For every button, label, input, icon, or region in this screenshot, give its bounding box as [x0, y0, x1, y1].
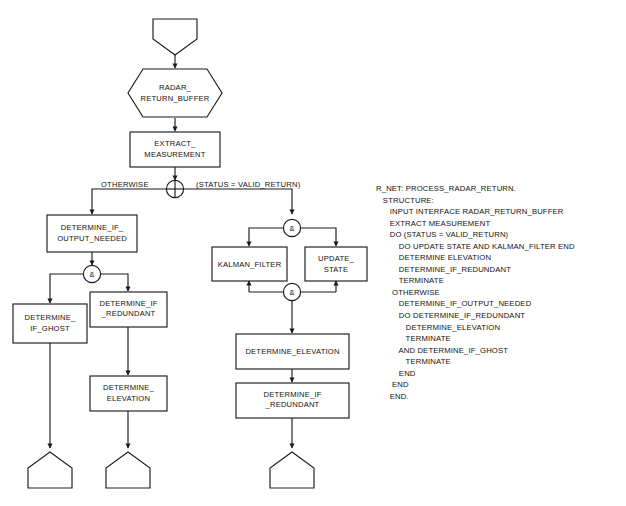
terminator-ghost-branch[interactable] [28, 452, 72, 488]
pseudocode-line: END [376, 368, 622, 380]
edge-and-to-update-state [301, 228, 336, 246]
pseudocode-line: OTHERWISE [376, 287, 622, 299]
pseudocode-line: END [376, 379, 622, 391]
determine-if-redundant-right-label-line1: DETERMINE_IF [263, 390, 321, 399]
pseudocode-line: DETERMINE ELEVATION [376, 252, 622, 264]
pseudocode-line: DETERMINE_ELEVATION [376, 322, 622, 334]
determine-if-redundant-right-label-line2: _REDUNDANT [265, 400, 320, 409]
pseudocode-block: R_NET: PROCESS_RADAR_RETURN. STRUCTURE: … [376, 183, 622, 402]
terminator-valid-return-branch[interactable] [270, 452, 314, 488]
determine-if-redundant-left-label-line2: _REDUNDANT [101, 309, 156, 318]
edge-label-otherwise: OTHERWISE [101, 180, 149, 189]
determine-elevation-left-label-line2: ELEVATION [107, 394, 150, 403]
pseudocode-line: DO DETERMINE_IF_REDUNDANT [376, 310, 622, 322]
pseudocode-line: AND DETERMINE_IF_GHOST [376, 345, 622, 357]
edge-and-to-ghost [50, 274, 83, 303]
determine-if-output-needed-label-line2: OUTPUT_NEEDED [57, 234, 127, 243]
pseudocode-line: STRUCTURE: [376, 195, 622, 207]
update-state-label-line1: UPDATE_ [318, 254, 354, 263]
pseudocode-line: TERMINATE [376, 356, 622, 368]
determine-if-redundant-left-label-line1: DETERMINE_IF [99, 299, 157, 308]
and-junction-left-glyph: & [90, 270, 95, 279]
pseudocode-line: TERMINATE [376, 275, 622, 287]
pseudocode-line: INPUT INTERFACE RADAR_RETURN_BUFFER [376, 206, 622, 218]
edge-label-valid-return: (STATUS = VALID_RETURN) [196, 180, 301, 189]
pseudocode-line: R_NET: PROCESS_RADAR_RETURN. [376, 183, 622, 195]
determine-elevation-left-label-line1: DETERMINE_ [103, 383, 155, 392]
determine-if-output-needed-label-line1: DETERMINE_IF_ [61, 223, 124, 232]
extract-measurement-label-line2: MEASUREMENT [144, 150, 205, 159]
determine-elevation-right-label: DETERMINE_ELEVATION [245, 347, 339, 356]
radar-return-buffer-label-line1: RADAR_ [159, 83, 192, 92]
edge-and-to-kalman [249, 228, 283, 246]
and-junction-right-upper[interactable]: & [283, 219, 300, 236]
edge-selection-otherwise [92, 189, 166, 214]
and-junction-right-lower-glyph: & [290, 288, 295, 297]
pseudocode-line: DETERMINE_IF_OUTPUT_NEEDED [376, 298, 622, 310]
pseudocode-line: DO (STATUS = VALID_RETURN) [376, 229, 622, 241]
start-terminator[interactable] [153, 19, 197, 55]
determine-if-ghost-label-line1: DETERMINE_ [25, 313, 77, 322]
edge-and-to-redundant-left [101, 274, 128, 291]
radar-return-buffer-label-line2: RETURN_BUFFER [141, 94, 210, 103]
pseudocode-line: DO UPDATE STATE AND KALMAN_FILTER END [376, 241, 622, 253]
selection-junction[interactable] [166, 180, 183, 197]
pseudocode-line: END. [376, 391, 622, 403]
update-state-label-line2: STATE [324, 265, 348, 274]
extract-measurement-label-line1: EXTRACT_ [154, 139, 196, 148]
determine-if-ghost-label-line2: IF_GHOST [30, 324, 70, 333]
and-junction-right-upper-glyph: & [290, 224, 295, 233]
and-junction-right-lower[interactable]: & [283, 283, 300, 300]
terminator-elevation-branch[interactable] [106, 452, 150, 488]
edge-selection-valid-return [184, 189, 292, 214]
and-junction-left[interactable]: & [83, 265, 100, 282]
pseudocode-line: EXTRACT MEASUREMENT [376, 218, 622, 230]
kalman-filter-label: KALMAN_FILTER [218, 260, 282, 269]
pseudocode-line: DETERMINE_IF_REDUNDANT [376, 264, 622, 276]
pseudocode-line: TERMINATE [376, 333, 622, 345]
